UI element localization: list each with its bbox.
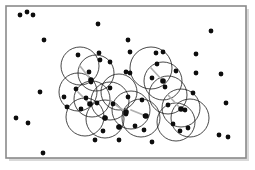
data-point (133, 124, 138, 129)
disk-center-point (87, 101, 93, 107)
data-point (191, 91, 196, 96)
data-point (163, 85, 168, 90)
data-point (128, 71, 133, 76)
disk-center-point (116, 124, 122, 130)
disk-center-point (143, 113, 149, 119)
data-point (74, 87, 79, 92)
disk-center-point (123, 109, 129, 115)
data-point (224, 101, 229, 106)
data-point (31, 13, 36, 18)
data-point (108, 60, 113, 65)
data-point (97, 51, 102, 56)
data-point (111, 102, 116, 107)
data-point (76, 53, 81, 58)
data-point (194, 71, 199, 76)
data-point (95, 101, 100, 106)
data-point (209, 29, 214, 34)
data-point (124, 70, 129, 75)
data-point (98, 58, 103, 63)
data-point (14, 116, 19, 121)
data-point (161, 50, 166, 55)
data-point (101, 129, 106, 134)
data-point (25, 10, 30, 15)
data-point (150, 76, 155, 81)
disk-center-point (160, 78, 166, 84)
plot-frame (6, 6, 246, 158)
data-point (108, 86, 113, 91)
data-point (219, 72, 224, 77)
data-point (65, 105, 70, 110)
data-point (84, 96, 89, 101)
data-point (42, 38, 47, 43)
disk-center-point (102, 115, 108, 121)
figure-container (0, 0, 255, 170)
data-point (93, 138, 98, 143)
data-point (38, 90, 43, 95)
frame-group (6, 6, 246, 158)
data-point (186, 126, 191, 131)
data-point (217, 133, 222, 138)
data-point (41, 151, 46, 156)
data-point (154, 51, 159, 56)
data-point (128, 50, 133, 55)
data-point (178, 129, 183, 134)
data-point (150, 140, 155, 145)
disk-center-point (178, 106, 184, 112)
data-point (226, 135, 231, 140)
data-point (62, 95, 67, 100)
data-point (166, 103, 171, 108)
disk-covering-diagram (0, 0, 255, 170)
data-point (117, 138, 122, 143)
data-point (140, 98, 145, 103)
data-point (18, 13, 23, 18)
data-point (126, 38, 131, 43)
disk-center-point (88, 77, 94, 83)
data-point (155, 62, 160, 67)
data-point (79, 107, 84, 112)
data-point (171, 122, 176, 127)
data-point (174, 69, 179, 74)
data-point (96, 22, 101, 27)
data-point (87, 70, 92, 75)
data-point (26, 121, 31, 126)
data-point (126, 95, 131, 100)
data-point (142, 128, 147, 133)
data-point (194, 52, 199, 57)
